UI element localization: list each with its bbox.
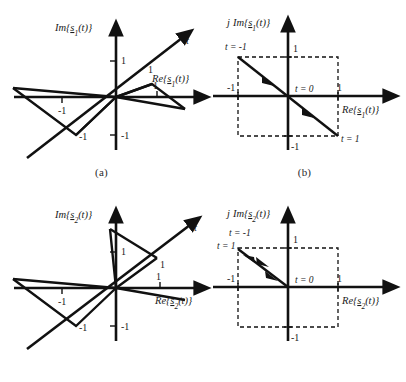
panel-d-complex-plane-s2: jIm{s2(t)} Re{s2(t)} 1 -1 1 -1 t = -1 t … [203, 191, 406, 382]
panel-a-label-re-neg: -1 [58, 105, 66, 116]
panel-d-direction-arrow-return [243, 255, 255, 263]
panel-b-label-re-pos: 1 [337, 82, 342, 93]
panel-d-marker-t-origin: t = 0 [295, 275, 314, 285]
panel-a-im-axis-label: Im{s1(t)} [54, 22, 93, 38]
panel-b-complex-plane-s1: jIm{s1(t)} Re{s1(t)} 1 -1 1 -1 t = -1 t … [203, 0, 406, 191]
panel-b-label-re-neg: -1 [227, 82, 235, 93]
panel-c-3d-trajectory-s2: 1 -1 1 -1 1 -1 Im{s2(t)} Re{s2(t)} t (c) [0, 191, 203, 382]
panel-c-t-axis-label: t [194, 222, 198, 233]
panel-d-re-axis-label: Re{s2(t)} [341, 295, 380, 311]
panel-a-label-im-pos: 1 [121, 55, 126, 66]
panel-b-label-im-neg: -1 [291, 141, 299, 152]
panel-c-label-im-pos: 1 [121, 246, 126, 257]
panel-b-label-im-pos: 1 [293, 43, 298, 54]
panel-a-label-im-neg: -1 [121, 130, 129, 141]
panel-c-label-re-neg: -1 [58, 296, 66, 307]
panel-d-label-im-pos: 1 [293, 234, 298, 245]
panel-d-locus-line [238, 249, 288, 287]
panel-b-marker-t-end: t = 1 [341, 134, 360, 144]
panel-a-caption: (a) [0, 166, 203, 178]
panel-b-marker-t-origin: t = 0 [295, 84, 314, 94]
panel-b-re-axis-label: Re{s1(t)} [341, 104, 380, 120]
panel-c-re-axis-label: Re{s2(t)} [154, 295, 193, 311]
panel-d-marker-t-start: t = -1 [229, 228, 251, 238]
panel-a-label-t-neg: -1 [79, 131, 87, 142]
panel-b-im-axis-label: jIm{s1(t)} [225, 17, 271, 33]
panel-c-label-t-pos: 1 [160, 259, 165, 270]
panel-d-label-im-neg: -1 [291, 332, 299, 343]
panel-c-label-t-neg: -1 [79, 322, 87, 333]
panel-d-im-axis-label: jIm{s2(t)} [225, 208, 271, 224]
panel-b-caption: (b) [203, 166, 406, 178]
panel-b-marker-t-start: t = -1 [225, 42, 247, 52]
panel-d-label-re-neg: -1 [227, 273, 235, 284]
signal-space-figure: 1 -1 1 -1 1 -1 Im{s1(t)} Re{s1(t)} t (a) [0, 0, 406, 382]
panel-c-im-axis-label: Im{s2(t)} [54, 209, 93, 225]
panel-a-t-axis-label: t [186, 35, 190, 46]
panel-d-marker-t-end-top: t = 1 [217, 241, 236, 251]
panel-c-label-im-neg: -1 [121, 321, 129, 332]
panel-d-label-re-pos: 1 [337, 273, 342, 284]
panel-a-3d-trajectory-s1: 1 -1 1 -1 1 -1 Im{s1(t)} Re{s1(t)} t (a) [0, 0, 203, 191]
panel-c-label-re-pos: 1 [156, 271, 161, 282]
